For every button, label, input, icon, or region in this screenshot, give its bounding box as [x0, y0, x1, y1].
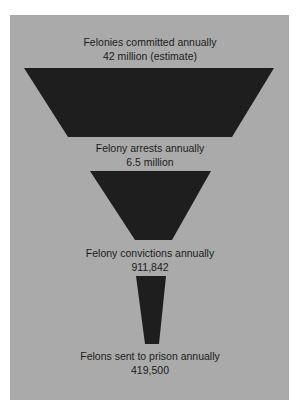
funnel-segment-committed-to-arrests — [24, 68, 274, 137]
stage-value: 42 million (estimate) — [0, 49, 300, 63]
funnel-segment-arrests-to-convictions — [90, 171, 211, 240]
stage-title: Felonies committed annually — [0, 35, 300, 49]
stage-label-felony-arrests: Felony arrests annually 6.5 million — [0, 141, 300, 169]
stage-label-felonies-committed: Felonies committed annually 42 million (… — [0, 35, 300, 63]
stage-label-felons-sent-to-prison: Felons sent to prison annually 419,500 — [0, 349, 300, 377]
funnel-segment-convictions-to-prison — [136, 276, 166, 344]
stage-title: Felony arrests annually — [0, 141, 300, 155]
stage-title: Felony convictions annually — [0, 246, 300, 260]
stage-value: 6.5 million — [0, 155, 300, 169]
stage-value: 419,500 — [0, 363, 300, 377]
stage-title: Felons sent to prison annually — [0, 349, 300, 363]
stage-label-felony-convictions: Felony convictions annually 911,842 — [0, 246, 300, 274]
stage-value: 911,842 — [0, 260, 300, 274]
